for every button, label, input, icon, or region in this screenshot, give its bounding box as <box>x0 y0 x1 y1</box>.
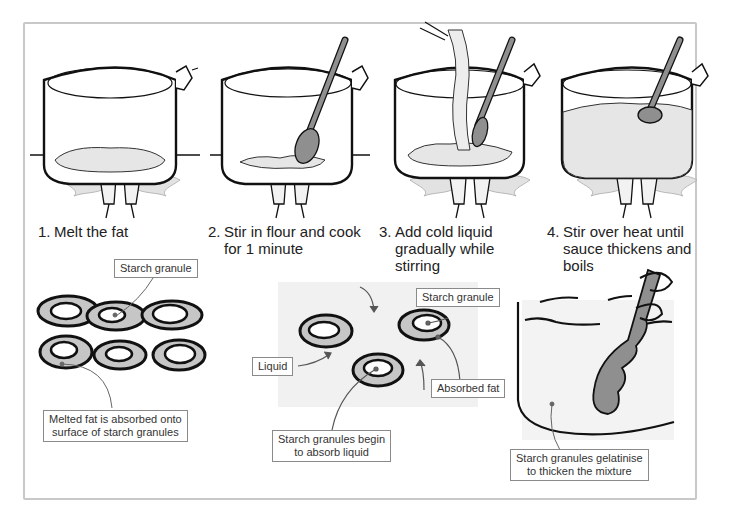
step-3-caption: 3.Add cold liquidgradually whilestirring <box>379 223 494 274</box>
label-begin-absorb: Starch granules begin to absorb liquid <box>272 430 391 462</box>
label-absorbed-fat: Absorbed fat <box>431 379 505 398</box>
pan-step-4 <box>562 40 708 218</box>
label-gelatinise: Starch granules gelatinise to thicken th… <box>510 449 649 481</box>
pan-step-3 <box>395 22 540 218</box>
step-1-caption: 1.Melt the fat <box>38 223 128 240</box>
label-melted-fat: Melted fat is absorbed onto surface of s… <box>43 410 188 442</box>
label-starch-granule-b: Starch granule <box>416 288 500 307</box>
label-liquid: Liquid <box>252 357 293 376</box>
step-4-caption: 4.Stir over heat untilsauce thickens and… <box>547 223 691 274</box>
diagram-fat-coating <box>38 296 205 370</box>
pan-step-2 <box>210 40 370 218</box>
pan-step-1 <box>30 66 200 218</box>
label-starch-granule-a: Starch granule <box>114 259 198 278</box>
step-2-caption: 2.Stir in flour and cookfor 1 minute <box>208 223 361 257</box>
